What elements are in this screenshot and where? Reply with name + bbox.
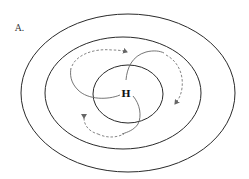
- panel-label: A.: [14, 23, 24, 33]
- flow-arrow-lower: [84, 96, 140, 137]
- high-pressure-label: H: [121, 88, 130, 99]
- flow-arrow-upper-right: [126, 51, 182, 104]
- flow-arrow-upper-left: [71, 50, 127, 99]
- high-pressure-diagram: A. H: [0, 0, 249, 179]
- diagram-canvas: A. H: [0, 0, 249, 179]
- lower-dash-return: [98, 134, 124, 137]
